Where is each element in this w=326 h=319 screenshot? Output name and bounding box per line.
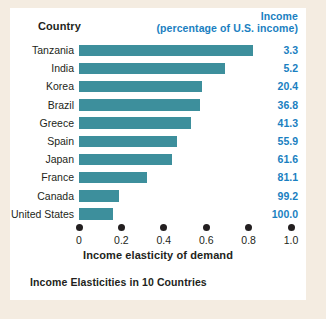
axis-tick-label: 1.0 bbox=[284, 234, 299, 246]
axis-tick-mark bbox=[288, 224, 295, 231]
table-row: Tanzania3.3 bbox=[10, 42, 306, 60]
bar-track bbox=[79, 45, 253, 57]
column-header-income-line1: Income bbox=[261, 10, 298, 22]
country-label: India bbox=[10, 62, 74, 74]
bar-plot-area: Tanzania3.3India5.2Korea20.4Brazil36.8Gr… bbox=[10, 42, 306, 224]
bar-france bbox=[79, 172, 147, 184]
income-value: 3.3 bbox=[236, 44, 298, 56]
bar-brazil bbox=[79, 99, 200, 111]
country-label: Spain bbox=[10, 135, 74, 147]
axis-tick-label: 0.4 bbox=[156, 234, 171, 246]
bar-tanzania bbox=[79, 45, 253, 57]
country-label: Canada bbox=[10, 190, 74, 202]
axis-tick-mark bbox=[76, 224, 83, 231]
bar-united-states bbox=[79, 208, 113, 220]
chart-header: Country Income (percentage of U.S. incom… bbox=[10, 8, 306, 42]
bar-track bbox=[79, 154, 172, 166]
axis-tick-label: 0.2 bbox=[114, 234, 129, 246]
country-label: Tanzania bbox=[10, 44, 74, 56]
income-value: 20.4 bbox=[236, 80, 298, 92]
country-label: Korea bbox=[10, 80, 74, 92]
axis-tick-label: 0.6 bbox=[199, 234, 214, 246]
country-label: Greece bbox=[10, 117, 74, 129]
bar-canada bbox=[79, 190, 119, 202]
table-row: United States100.0 bbox=[10, 206, 306, 224]
table-row: Canada99.2 bbox=[10, 188, 306, 206]
table-row: Greece41.3 bbox=[10, 115, 306, 133]
income-value: 36.8 bbox=[236, 99, 298, 111]
axis-tick-label: 0 bbox=[76, 234, 82, 246]
bar-track bbox=[79, 172, 147, 184]
bar-track bbox=[79, 63, 225, 75]
table-row: India5.2 bbox=[10, 60, 306, 78]
table-row: France81.1 bbox=[10, 169, 306, 187]
country-label: Japan bbox=[10, 153, 74, 165]
bar-spain bbox=[79, 136, 177, 148]
income-value: 55.9 bbox=[236, 135, 298, 147]
income-value: 99.2 bbox=[236, 190, 298, 202]
bar-track bbox=[79, 117, 191, 129]
country-label: United States bbox=[10, 208, 74, 220]
column-header-country: Country bbox=[38, 20, 81, 32]
axis-tick-mark bbox=[203, 224, 210, 231]
table-row: Spain55.9 bbox=[10, 133, 306, 151]
bar-korea bbox=[79, 81, 202, 93]
axis-tick-mark bbox=[245, 224, 252, 231]
income-value: 100.0 bbox=[236, 208, 298, 220]
x-axis-title: Income elasticity of demand bbox=[10, 249, 306, 261]
bar-track bbox=[79, 190, 119, 202]
income-value: 41.3 bbox=[236, 117, 298, 129]
table-row: Brazil36.8 bbox=[10, 97, 306, 115]
bar-track bbox=[79, 81, 202, 93]
bar-india bbox=[79, 63, 225, 75]
income-value: 5.2 bbox=[236, 62, 298, 74]
bar-track bbox=[79, 208, 113, 220]
country-label: Brazil bbox=[10, 99, 74, 111]
country-label: France bbox=[10, 171, 74, 183]
axis-tick-label: 0.8 bbox=[241, 234, 256, 246]
bar-track bbox=[79, 99, 200, 111]
column-header-income-line2: (percentage of U.S. income) bbox=[156, 22, 298, 34]
bar-greece bbox=[79, 117, 191, 129]
table-row: Korea20.4 bbox=[10, 78, 306, 96]
table-row: Japan61.6 bbox=[10, 151, 306, 169]
income-value: 61.6 bbox=[236, 153, 298, 165]
bar-track bbox=[79, 136, 177, 148]
axis-tick-mark bbox=[118, 224, 125, 231]
bar-japan bbox=[79, 154, 172, 166]
chart-caption: Income Elasticities in 10 Countries bbox=[30, 276, 207, 288]
income-value: 81.1 bbox=[236, 171, 298, 183]
x-axis: Income elasticity of demand 00.20.40.60.… bbox=[10, 224, 306, 264]
axis-tick-mark bbox=[160, 224, 167, 231]
chart-figure: Country Income (percentage of U.S. incom… bbox=[10, 8, 306, 300]
